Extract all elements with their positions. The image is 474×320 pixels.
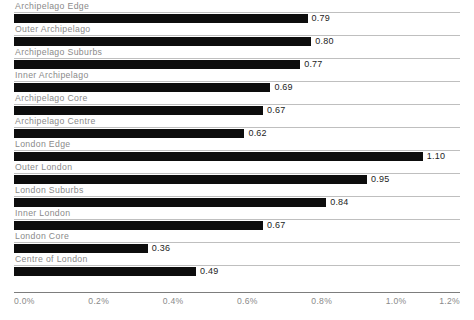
x-tick-label: 0.0% <box>14 295 35 307</box>
category-label: Archipelago Suburbs <box>15 46 102 58</box>
category-label: Archipelago Edge <box>15 0 89 12</box>
x-tick-label: 1.2% <box>439 295 460 307</box>
bar-chart: Archipelago Edge0.79Outer Archipelago0.8… <box>0 0 474 320</box>
x-axis-line <box>14 292 460 293</box>
category-label: Archipelago Centre <box>15 115 96 127</box>
x-axis-tick-labels: 0.0%0.2%0.4%0.6%0.8%1.0%1.2% <box>14 295 460 315</box>
category-label: Inner Archipelago <box>15 69 89 81</box>
bar-value-label: 0.49 <box>200 266 218 277</box>
bar <box>14 221 263 230</box>
bar-container: 0.84 <box>14 198 460 207</box>
bar-container: 0.79 <box>14 14 460 23</box>
x-tick-label: 0.8% <box>311 295 332 307</box>
bar-container: 0.77 <box>14 60 460 69</box>
bar <box>14 106 263 115</box>
gridline <box>14 265 460 266</box>
x-tick-label: 0.2% <box>88 295 109 307</box>
bar <box>14 175 367 184</box>
chart-row: Outer London0.95 <box>14 161 460 184</box>
category-label: London Suburbs <box>15 184 84 196</box>
bar <box>14 267 196 276</box>
gridline <box>14 12 460 13</box>
chart-row: Archipelago Edge0.79 <box>14 0 460 23</box>
category-label: Outer Archipelago <box>15 23 91 35</box>
x-tick-label: 0.4% <box>163 295 184 307</box>
category-label: London Core <box>15 230 69 242</box>
bar-container: 1.10 <box>14 152 460 161</box>
chart-row: London Core0.36 <box>14 230 460 253</box>
chart-row: Centre of London0.49 <box>14 253 460 276</box>
gridline <box>14 127 460 128</box>
category-label: Archipelago Core <box>15 92 88 104</box>
bar <box>14 60 300 69</box>
gridline <box>14 242 460 243</box>
bar <box>14 244 148 253</box>
chart-row: Archipelago Centre0.62 <box>14 115 460 138</box>
category-label: London Edge <box>15 138 71 150</box>
category-label: Outer London <box>15 161 72 173</box>
bar-container: 0.69 <box>14 83 460 92</box>
chart-row: Archipelago Suburbs0.77 <box>14 46 460 69</box>
chart-row: Archipelago Core0.67 <box>14 92 460 115</box>
category-label: Centre of London <box>15 253 88 265</box>
gridline <box>14 58 460 59</box>
bar-container: 0.67 <box>14 106 460 115</box>
chart-row: Inner London0.67 <box>14 207 460 230</box>
chart-row: Inner Archipelago0.69 <box>14 69 460 92</box>
gridline <box>14 173 460 174</box>
bar-container: 0.80 <box>14 37 460 46</box>
plot-area: Archipelago Edge0.79Outer Archipelago0.8… <box>14 0 460 292</box>
bar <box>14 129 244 138</box>
chart-row: London Suburbs0.84 <box>14 184 460 207</box>
gridline <box>14 35 460 36</box>
bar-container: 0.36 <box>14 244 460 253</box>
bar <box>14 83 270 92</box>
bar <box>14 14 308 23</box>
x-tick-label: 0.6% <box>237 295 258 307</box>
chart-row: London Edge1.10 <box>14 138 460 161</box>
gridline <box>14 104 460 105</box>
bar-container: 0.95 <box>14 175 460 184</box>
category-label: Inner London <box>15 207 70 219</box>
bar <box>14 198 326 207</box>
chart-row: Outer Archipelago0.80 <box>14 23 460 46</box>
gridline <box>14 150 460 151</box>
gridline <box>14 219 460 220</box>
bar-container: 0.62 <box>14 129 460 138</box>
bar <box>14 152 423 161</box>
bar-container: 0.49 <box>14 267 460 276</box>
bar <box>14 37 311 46</box>
gridline <box>14 81 460 82</box>
x-tick-label: 1.0% <box>386 295 407 307</box>
bar-container: 0.67 <box>14 221 460 230</box>
gridline <box>14 196 460 197</box>
